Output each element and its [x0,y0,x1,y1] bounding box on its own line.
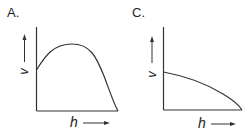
y-axis-label-c: v [144,71,159,78]
x-axis-label-a: h [70,114,78,130]
y-axis-label-a: v [16,68,31,75]
right-arrow-icon [211,122,236,126]
panel-a: A. v h [0,0,123,133]
curve-a [37,44,119,111]
curve-c [164,72,243,110]
graph-c [123,0,246,133]
x-axis-label-c: h [198,115,206,131]
graph-a [0,0,123,133]
panel-c: C. v h [123,0,246,133]
up-arrow-icon [150,36,154,63]
right-arrow-icon [83,121,110,125]
up-arrow-icon [23,34,27,62]
